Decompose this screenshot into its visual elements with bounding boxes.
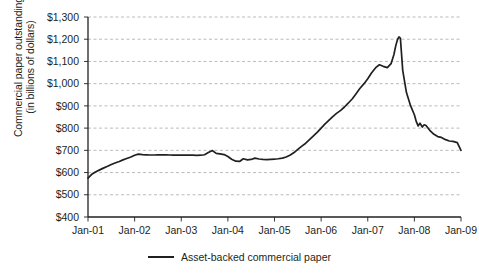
x-axis-tick-label: Jan-05 xyxy=(258,224,290,236)
data-line-asset-backed-commercial-paper xyxy=(88,37,461,178)
legend-label-asset-backed-commercial-paper: Asset-backed commercial paper xyxy=(181,251,331,263)
y-axis-tick-label: $700 xyxy=(56,144,80,156)
y-axis-tick-label: $800 xyxy=(56,122,80,134)
y-axis-tick-label: $900 xyxy=(56,100,80,112)
y-axis-tick-label: $500 xyxy=(56,188,80,200)
chart-legend: Asset-backed commercial paper xyxy=(0,251,479,263)
y-axis-tick-label: $1,100 xyxy=(47,55,79,67)
x-axis-tick-label: Jan-02 xyxy=(119,224,151,236)
x-axis-tick-label: Jan-07 xyxy=(352,224,384,236)
legend-line-swatch xyxy=(148,256,174,258)
line-chart-plot: $1,300$1,200$1,100$1,000$900$800$700$600… xyxy=(0,0,479,276)
x-axis-tick-label: Jan-08 xyxy=(398,224,430,236)
y-axis-tick-label: $1,200 xyxy=(47,33,79,45)
y-axis-tick-label: $600 xyxy=(56,166,80,178)
x-axis-tick-label: Jan-09 xyxy=(445,224,477,236)
y-axis-tick-label: $1,300 xyxy=(47,11,79,23)
x-axis-tick-label: Jan-04 xyxy=(212,224,244,236)
x-axis-tick-label: Jan-06 xyxy=(305,224,337,236)
y-axis-tick-label: $400 xyxy=(56,211,80,223)
x-axis-tick-label: Jan-03 xyxy=(165,224,197,236)
y-axis-tick-label: $1,000 xyxy=(47,77,79,89)
x-axis-tick-label: Jan-01 xyxy=(72,224,104,236)
chart-figure: Commercial paper outstanding (in billion… xyxy=(0,0,479,276)
